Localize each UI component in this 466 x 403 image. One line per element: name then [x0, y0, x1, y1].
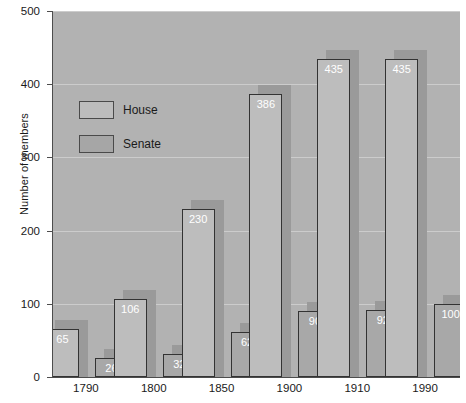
- bar-senate-1990[interactable]: 100: [434, 304, 460, 377]
- y-axis-tick-400: 400: [0, 78, 46, 90]
- y-axis-tick-100: 100: [0, 298, 46, 310]
- figure-caption: [6, 396, 462, 403]
- y-axis-title: Number of members: [18, 84, 30, 244]
- x-axis-tick-1850: 1850: [209, 382, 235, 394]
- bar-value-label: 435: [386, 63, 417, 76]
- bar-value-label: 106: [115, 303, 146, 316]
- legend-label-senate: Senate: [123, 137, 161, 151]
- plot-area: 652610632230623869043592435100 House Sen…: [52, 11, 460, 378]
- bar-chart-figure: Number of members 0100200300400500 17901…: [0, 0, 466, 403]
- y-axis-tick-0: 0: [0, 371, 46, 383]
- bar-house-1990[interactable]: 435: [385, 59, 418, 377]
- bar-house-1910[interactable]: 435: [317, 59, 350, 377]
- bar-value-label: 386: [250, 98, 281, 111]
- legend-item-senate: Senate: [79, 131, 161, 157]
- gridline: [53, 11, 460, 12]
- legend: House Senate: [79, 97, 161, 165]
- x-axis-tick-1800: 1800: [141, 382, 167, 394]
- y-axis-tick-200: 200: [0, 225, 46, 237]
- legend-swatch-senate-icon: [79, 135, 114, 153]
- bar-value-label: 100: [435, 308, 460, 321]
- bar-value-label: 65: [52, 333, 78, 346]
- bar-value-label: 230: [183, 213, 214, 226]
- x-axis-tick-1910: 1910: [344, 382, 370, 394]
- y-axis-tick-300: 300: [0, 151, 46, 163]
- bar-house-1850[interactable]: 230: [182, 209, 215, 377]
- bar-house-1790[interactable]: 65: [52, 329, 79, 377]
- bar-value-label: 435: [318, 63, 349, 76]
- bar-house-1800[interactable]: 106: [114, 299, 147, 377]
- x-axis-tick-1790: 1790: [73, 382, 99, 394]
- bar-house-1900[interactable]: 386: [249, 94, 282, 377]
- legend-swatch-house-icon: [79, 101, 114, 119]
- x-axis-tick-1900: 1900: [277, 382, 303, 394]
- legend-label-house: House: [123, 103, 158, 117]
- y-axis-tick-500: 500: [0, 5, 46, 17]
- x-axis-tick-1990: 1990: [412, 382, 438, 394]
- legend-item-house: House: [79, 97, 161, 123]
